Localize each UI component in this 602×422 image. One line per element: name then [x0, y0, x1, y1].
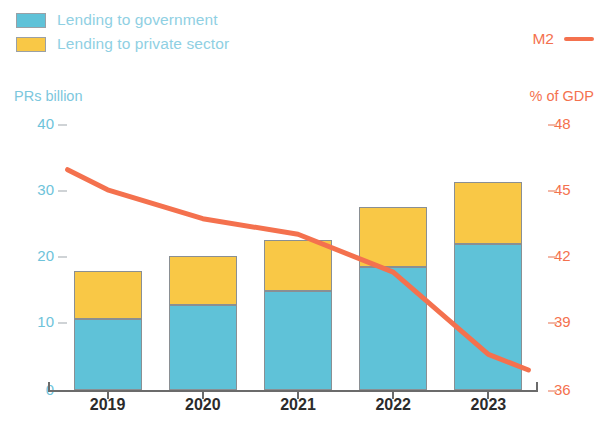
- x-axis-left-cap: [48, 382, 50, 392]
- left-tick-label-10: 10: [14, 314, 54, 329]
- bar-2023: [454, 182, 522, 390]
- right-tick-mark-45: [548, 190, 557, 192]
- right-tick-label-36: 36: [554, 382, 594, 397]
- right-tick-label-39: 39: [554, 314, 594, 329]
- left-tick-label-30: 30: [14, 182, 54, 197]
- x-axis-label-2022: 2022: [348, 396, 438, 414]
- right-tick-mark-36: [548, 390, 557, 392]
- legend-label-government: Lending to government: [57, 11, 218, 29]
- x-axis-right-cap: [536, 382, 538, 392]
- bar-segment-government-2021: [264, 291, 332, 390]
- bar-2019: [74, 271, 142, 390]
- left-tick-mark-20: [58, 256, 67, 258]
- bar-segment-private-2019: [74, 271, 142, 320]
- right-axis-title: % of GDP: [530, 88, 594, 104]
- left-tick-mark-30: [58, 190, 67, 192]
- bar-segment-private-2021: [264, 240, 332, 291]
- right-tick-mark-48: [548, 124, 557, 126]
- legend-label-private: Lending to private sector: [57, 35, 229, 53]
- bar-segment-private-2023: [454, 182, 522, 244]
- legend-item-lending-to-private-sector: Lending to private sector: [16, 32, 229, 56]
- legend-swatch-icon-government: [16, 13, 46, 28]
- bar-segment-private-2022: [359, 207, 427, 267]
- bar-2020: [169, 256, 237, 390]
- right-tick-label-45: 45: [554, 182, 594, 197]
- bar-2022: [359, 207, 427, 390]
- x-axis-line: [48, 390, 538, 392]
- left-tick-label-20: 20: [14, 248, 54, 263]
- legend: Lending to government Lending to private…: [16, 8, 229, 56]
- bar-segment-government-2019: [74, 319, 142, 390]
- legend-item-lending-to-government: Lending to government: [16, 8, 229, 32]
- left-tick-label-40: 40: [14, 116, 54, 131]
- x-axis-label-2019: 2019: [63, 396, 153, 414]
- left-tick-mark-40: [58, 124, 67, 126]
- bar-segment-private-2020: [169, 256, 237, 305]
- left-tick-mark-10: [58, 322, 67, 324]
- chart-container: Lending to government Lending to private…: [0, 0, 602, 422]
- bar-segment-government-2022: [359, 267, 427, 390]
- x-axis-label-2023: 2023: [443, 396, 533, 414]
- legend-swatch-icon-private: [16, 37, 46, 52]
- legend-item-m2: M2: [532, 30, 594, 48]
- x-axis-label-2021: 2021: [253, 396, 343, 414]
- right-tick-mark-39: [548, 322, 557, 324]
- right-tick-label-48: 48: [554, 116, 594, 131]
- right-tick-mark-42: [548, 256, 557, 258]
- right-tick-label-42: 42: [554, 248, 594, 263]
- bar-segment-government-2023: [454, 244, 522, 390]
- left-axis-title: PRs billion: [14, 88, 83, 104]
- legend-line-icon-m2: [564, 37, 594, 41]
- bar-segment-government-2020: [169, 305, 237, 390]
- x-axis-label-2020: 2020: [158, 396, 248, 414]
- legend-label-m2: M2: [532, 30, 554, 48]
- bar-2021: [264, 240, 332, 390]
